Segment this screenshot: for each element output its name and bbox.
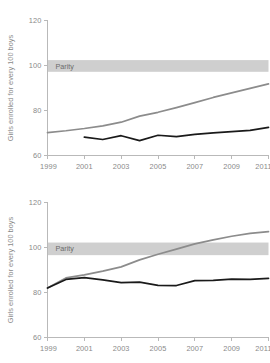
y-tick-label: 80 <box>33 288 41 297</box>
axis-lines <box>48 203 269 338</box>
x-tick-label: 2009 <box>223 344 240 353</box>
x-tick-label: 2005 <box>150 162 167 171</box>
y-tick-label: 80 <box>33 106 41 115</box>
parity-label: Parity <box>56 244 75 253</box>
figure-container: Parity6080100120199920012003200520072009… <box>0 0 270 363</box>
x-tick-label: 2003 <box>113 162 130 171</box>
chart-panel-top: Parity6080100120199920012003200520072009… <box>0 0 270 181</box>
chart-panel-bottom: Parity6080100120199920012003200520072009… <box>0 182 270 363</box>
x-tick-label: 2005 <box>150 344 167 353</box>
y-axis-title: Girls enrolled for every 100 boys <box>6 35 15 142</box>
line-chart-top: Parity6080100120199920012003200520072009… <box>0 0 270 181</box>
x-tick-label: 2011 <box>255 162 270 171</box>
x-tick-label: 2003 <box>113 344 130 353</box>
x-tick-label: 2011 <box>255 344 270 353</box>
line-chart-bottom: Parity6080100120199920012003200520072009… <box>0 182 270 363</box>
y-tick-label: 100 <box>29 243 42 252</box>
y-tick-label: 60 <box>33 333 41 342</box>
parity-band <box>48 243 269 256</box>
x-tick-label: 2001 <box>76 344 93 353</box>
x-tick-label: 2001 <box>76 162 93 171</box>
y-tick-label: 100 <box>29 61 42 70</box>
x-tick-label: 1999 <box>40 162 57 171</box>
series-line-black-series <box>48 278 269 288</box>
x-tick-label: 1999 <box>40 344 57 353</box>
parity-label: Parity <box>56 62 75 71</box>
y-tick-label: 120 <box>29 198 42 207</box>
x-tick-label: 2007 <box>186 162 203 171</box>
y-axis-title: Girls enrolled for every 100 boys <box>6 217 15 324</box>
y-tick-label: 120 <box>29 16 42 25</box>
series-line-gray-series <box>48 84 269 133</box>
series-line-black-series <box>84 127 268 140</box>
parity-band <box>48 60 269 72</box>
y-tick-label: 60 <box>33 151 41 160</box>
x-tick-label: 2007 <box>186 344 203 353</box>
x-tick-label: 2009 <box>223 162 240 171</box>
